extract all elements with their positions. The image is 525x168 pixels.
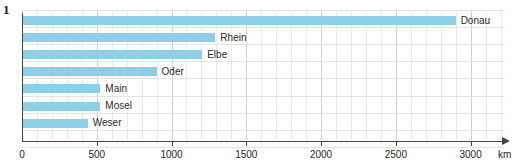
x-axis-tick-label: 3000 [459, 150, 481, 160]
x-axis-line [22, 141, 504, 142]
x-axis-tick-label: 0 [19, 150, 25, 160]
x-axis-tick [172, 141, 173, 146]
bar-row[interactable]: Oder [22, 67, 505, 76]
x-axis-tick-label: 500 [88, 150, 105, 160]
chart-bars: DonauRheinElbeOderMainMoselWeser [22, 10, 505, 140]
bar-label: Rhein [220, 33, 246, 43]
x-axis-arrow-icon [502, 137, 510, 145]
x-axis-tick [471, 141, 472, 146]
bar-label: Oder [162, 67, 184, 77]
bar-label: Elbe [207, 50, 227, 60]
x-axis-tick [396, 141, 397, 146]
bar[interactable] [22, 119, 88, 128]
x-axis-tick-label: 2000 [310, 150, 332, 160]
x-axis-tick-label: 1500 [235, 150, 257, 160]
x-axis-unit-label: km [498, 150, 511, 160]
bar-row[interactable]: Rhein [22, 33, 505, 42]
x-axis-tick [97, 141, 98, 146]
bar-label: Main [105, 84, 127, 94]
x-axis-tick-label: 1000 [160, 150, 182, 160]
bar-row[interactable]: Donau [22, 16, 505, 25]
x-axis-tick [321, 141, 322, 146]
bar[interactable] [22, 102, 100, 111]
bar[interactable] [22, 84, 100, 93]
bar[interactable] [22, 50, 202, 59]
bar-row[interactable]: Elbe [22, 50, 505, 59]
bar-label: Mosel [105, 101, 132, 111]
figure-container: 1 DonauRheinElbeOderMainMoselWeser 05001… [0, 0, 525, 168]
bar[interactable] [22, 33, 215, 42]
bar-row[interactable]: Weser [22, 119, 505, 128]
figure-number: 1 [3, 3, 10, 16]
x-axis-tick-label: 2500 [385, 150, 407, 160]
bar-label: Donau [461, 16, 490, 26]
bar[interactable] [22, 67, 157, 76]
y-axis-line [22, 13, 23, 141]
bar-label: Weser [93, 118, 122, 128]
chart-plot-area: DonauRheinElbeOderMainMoselWeser [22, 10, 505, 140]
bar-row[interactable]: Mosel [22, 102, 505, 111]
bar[interactable] [22, 16, 456, 25]
gridline-horizontal [22, 147, 505, 148]
bar-row[interactable]: Main [22, 84, 505, 93]
x-axis-tick [246, 141, 247, 146]
